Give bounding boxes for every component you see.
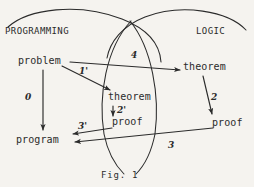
figure-caption: Fig. 1: [101, 171, 138, 180]
region-title-logic: LOGIC: [196, 27, 225, 36]
node-theorem-right: theorem: [183, 62, 226, 72]
node-problem: problem: [18, 56, 61, 66]
figure-container: PROGRAMMING LOGIC problem program theore…: [0, 0, 254, 187]
edge-label-1-prime: 1': [79, 67, 88, 76]
node-program: program: [16, 135, 59, 145]
edge-label-0: 0: [25, 93, 31, 102]
logic-set-boundary-top: [107, 10, 246, 58]
edge-label-3-prime: 3': [78, 122, 87, 131]
node-proof-right: proof: [212, 118, 243, 128]
node-theorem-center: theorem: [108, 92, 151, 102]
region-title-programming: PROGRAMMING: [5, 27, 69, 36]
node-proof-center: proof: [112, 117, 143, 127]
edge-label-4: 4: [131, 51, 137, 60]
edge-label-2: 2: [211, 93, 217, 102]
edge-label-2-prime: 2': [117, 106, 126, 115]
edge-label-3: 3: [168, 141, 174, 150]
